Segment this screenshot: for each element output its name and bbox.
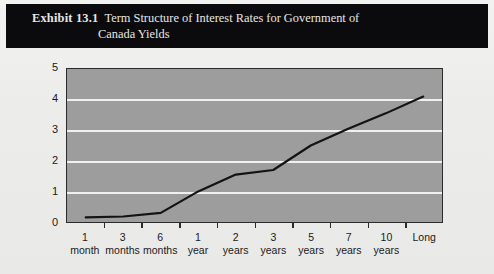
plot-area (66, 68, 443, 223)
exhibit-title-line1: Term Structure of Interest Rates for Gov… (98, 11, 359, 25)
y-axis-tick-label: 2 (36, 154, 58, 166)
x-axis-tick (292, 223, 294, 228)
y-axis-tick-label: 5 (36, 61, 58, 73)
exhibit-title-bar: Exhibit 13.1Term Structure of Interest R… (6, 4, 488, 48)
y-axis-tick-label: 3 (36, 123, 58, 135)
y-axis-tick-label: 0 (36, 216, 58, 228)
x-axis-tick (368, 223, 370, 228)
x-axis-tick (405, 223, 407, 228)
series-line-chart (67, 69, 442, 222)
y-axis-tick-label: 1 (36, 185, 58, 197)
exhibit-title-line2: Canada Yields (32, 27, 462, 43)
y-axis-tick-label: 4 (36, 92, 58, 104)
x-axis-tick (330, 223, 332, 228)
x-label-primary: Long (395, 231, 453, 244)
exhibit-figure: Exhibit 13.1Term Structure of Interest R… (0, 0, 494, 274)
x-axis-tick (217, 223, 219, 228)
x-label-secondary: years (357, 244, 415, 257)
chart-canvas: 012345 1month3months6months1year2years3y… (0, 52, 494, 274)
x-axis-tick (179, 223, 181, 228)
x-axis-tick (141, 223, 143, 228)
x-axis-tick (255, 223, 257, 228)
exhibit-title: Exhibit 13.1Term Structure of Interest R… (32, 11, 462, 42)
x-axis-tick-label: Long (395, 231, 453, 244)
x-axis-tick (104, 223, 106, 228)
yield-curve-line (86, 97, 424, 218)
exhibit-number: Exhibit 13.1 (32, 11, 98, 25)
